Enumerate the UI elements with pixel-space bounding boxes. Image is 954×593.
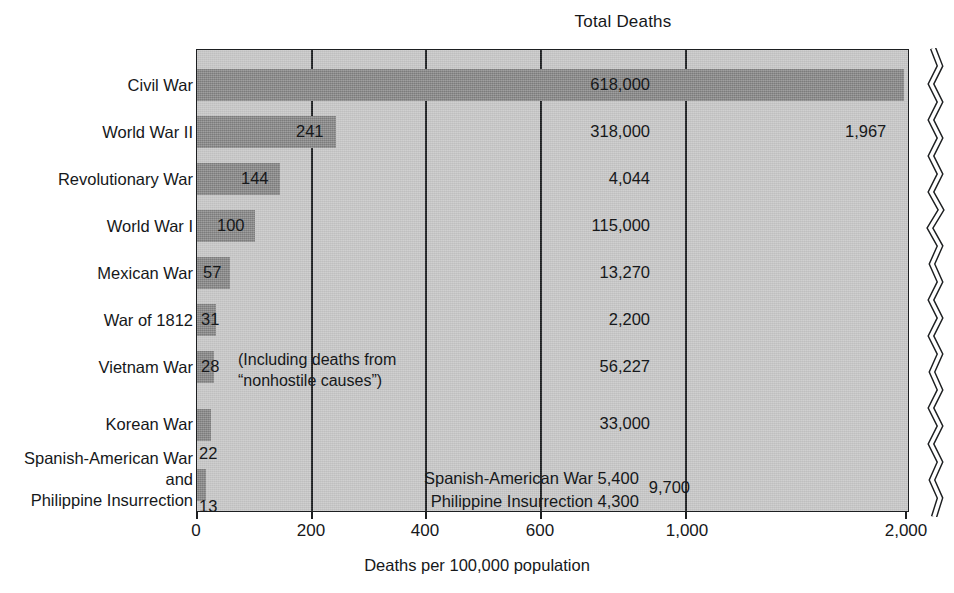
category-label-war-of-1812: War of 1812 — [0, 310, 193, 331]
tick-label-600: 600 — [526, 521, 554, 541]
category-label-civil-war: Civil War — [0, 75, 193, 96]
x-axis-title: Deaths per 100,000 population — [0, 556, 954, 575]
value-label-spanish-american-war: 13 — [199, 497, 217, 516]
value-label-revolutionary-war: 144 — [241, 169, 269, 188]
tick-mark-400 — [425, 512, 427, 519]
gridline-1000 — [685, 50, 687, 511]
tick-mark-600 — [540, 512, 542, 519]
category-label-mexican-war: Mexican War — [0, 263, 193, 284]
value-label-world-war-ii: 241 — [296, 122, 324, 141]
tick-label-2000: 2,000 — [885, 521, 928, 541]
value-label-war-of-1812: 31 — [201, 310, 219, 329]
chart-figure: Total Deaths Civil War World War II Revo… — [0, 0, 954, 593]
total-deaths-vietnam-war: 56,227 — [440, 357, 650, 376]
annotation-spanish-american-breakdown: Spanish-American War 5,400 Philippine In… — [424, 467, 639, 513]
total-deaths-war-of-1812: 2,200 — [440, 310, 650, 329]
category-label-vietnam-war: Vietnam War — [0, 357, 193, 378]
value-label-korean-war: 22 — [199, 444, 217, 463]
annotation-nonhostile-causes: (Including deaths from “nonhostile cause… — [238, 349, 396, 391]
value-label-vietnam-war: 28 — [201, 357, 219, 376]
category-label-spanish-american-war: Spanish-American War and Philippine Insu… — [0, 448, 193, 511]
total-deaths-mexican-war: 13,270 — [440, 263, 650, 282]
total-deaths-world-war-ii: 318,000 — [440, 122, 650, 141]
tick-label-1000: 1,000 — [666, 521, 709, 541]
tick-label-200: 200 — [297, 521, 325, 541]
gridline-400 — [425, 50, 427, 511]
category-label-revolutionary-war: Revolutionary War — [0, 169, 193, 190]
tick-mark-200 — [311, 512, 313, 519]
tick-mark-0 — [196, 512, 198, 519]
total-deaths-column-title: Total Deaths — [523, 12, 723, 32]
tick-label-400: 400 — [411, 521, 439, 541]
category-label-world-war-ii: World War II — [0, 122, 193, 143]
total-deaths-world-war-i: 115,000 — [440, 216, 650, 235]
value-label-mexican-war: 57 — [203, 263, 221, 282]
axis-break-zigzag-icon — [920, 48, 954, 517]
tick-label-0: 0 — [191, 521, 200, 541]
tick-mark-1000 — [685, 512, 687, 519]
total-deaths-civil-war: 618,000 — [440, 75, 650, 94]
category-label-korean-war: Korean War — [0, 414, 193, 435]
tick-mark-2000 — [905, 512, 907, 519]
total-deaths-korean-war: 33,000 — [440, 414, 650, 433]
total-deaths-revolutionary-war: 4,044 — [440, 169, 650, 188]
value-label-world-war-i: 100 — [217, 216, 245, 235]
value-label-civil-war: 1,967 — [845, 122, 886, 141]
category-label-world-war-i: World War I — [0, 216, 193, 237]
bar-korean-war — [197, 409, 211, 441]
